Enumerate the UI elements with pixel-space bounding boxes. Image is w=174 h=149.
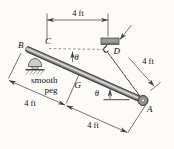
smooth-peg-label-line1: smooth	[31, 75, 58, 85]
smooth-peg-label-line2: peg	[45, 85, 58, 95]
dimension-label-bottom: 4 ft	[87, 120, 99, 130]
point-label-D: D	[113, 46, 121, 56]
point-label-C: C	[45, 36, 52, 46]
dimension-label-left: 4 ft	[24, 98, 36, 108]
theta-label-c: θ	[75, 52, 79, 62]
statics-diagram: 4 ft 4 ft 4 ft 4 ft	[0, 0, 174, 149]
dimension-label-right: 4 ft	[142, 56, 154, 66]
point-label-B: B	[18, 40, 24, 50]
point-label-G: G	[75, 80, 82, 90]
ceiling-mount	[101, 38, 119, 45]
dimension-label-top: 4 ft	[72, 8, 84, 18]
theta-label-a: θ	[95, 88, 99, 98]
point-label-A: A	[146, 104, 153, 114]
